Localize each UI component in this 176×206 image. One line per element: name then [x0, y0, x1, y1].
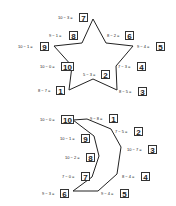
moon-answer-box: 1 — [109, 114, 118, 123]
star-equation: 10 − 1 = — [18, 44, 33, 50]
star-equation: 9 − 4 = — [137, 44, 149, 50]
star-answer-box: 3 — [138, 87, 147, 96]
star-answer-box: 1 — [56, 86, 65, 95]
star-answer-box: 8 — [69, 31, 78, 40]
star-outline — [54, 19, 133, 90]
moon-equation: 7 − 0 = — [62, 174, 74, 180]
star-answer-box: 7 — [79, 13, 88, 22]
moon-answer-box: 3 — [148, 145, 157, 154]
star-equation: 5 − 3 = — [83, 72, 95, 78]
star-equation: 9 − 1 = — [49, 33, 61, 39]
star-answer-box: 4 — [137, 62, 146, 71]
moon-answer-box: 7 — [81, 172, 90, 181]
moon-equation: 10 − 2 = — [65, 155, 80, 161]
star-equation: 10 − 0 = — [40, 64, 55, 70]
moon-equation: 10 − 7 = — [127, 147, 142, 153]
moon-answer-box: 8 — [86, 153, 95, 162]
star-answer-box: 5 — [156, 42, 165, 51]
star-answer-box: 2 — [101, 70, 110, 79]
star-answer-box: 10 — [61, 62, 74, 71]
star-equation: 7 − 3 = — [118, 64, 130, 70]
moon-equation: 8 − 4 = — [122, 174, 134, 180]
moon-answer-box: 4 — [141, 172, 150, 181]
moon-equation: 10 − 1 = — [60, 136, 75, 142]
star-answer-box: 6 — [125, 31, 134, 40]
moon-equation: 7 − 5 = — [115, 129, 127, 135]
moon-equation: 9 − 3 = — [42, 191, 54, 197]
star-equation: 8 − 7 = — [38, 88, 50, 94]
moon-answer-box: 10 — [61, 115, 74, 124]
moon-answer-box: 5 — [120, 189, 129, 198]
star-equation: 8 − 2 = — [107, 33, 119, 39]
star-equation: 10 − 3 = — [58, 15, 73, 21]
star-answer-box: 9 — [40, 42, 49, 51]
star-equation: 8 − 5 = — [119, 89, 131, 95]
moon-equation: 10 − 0 = — [40, 117, 55, 123]
moon-answer-box: 2 — [134, 127, 143, 136]
moon-answer-box: 6 — [60, 189, 69, 198]
moon-answer-box: 9 — [81, 134, 90, 143]
moon-equation: 9 − 4 = — [101, 191, 113, 197]
moon-equation: 9 − 8 = — [90, 116, 102, 122]
